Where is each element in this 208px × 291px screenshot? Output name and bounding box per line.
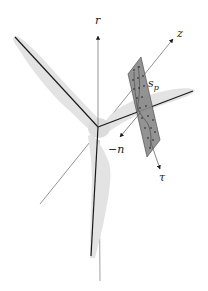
- blade-upper-left-surface: [13, 36, 100, 133]
- section-plane-label: sp: [148, 77, 159, 92]
- tau-axis-label: τ: [159, 171, 166, 184]
- wind-turbine-diagram: r z sp −n τ: [0, 0, 208, 291]
- neg-n-axis-label: −n: [108, 143, 124, 156]
- z-axis-label: z: [176, 27, 183, 40]
- rotor-hub: [88, 118, 110, 138]
- blade-upper-left-axis: [15, 37, 98, 127]
- r-axis-label: r: [95, 14, 101, 27]
